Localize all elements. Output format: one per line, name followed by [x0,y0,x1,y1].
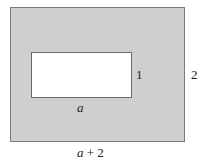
area-diagram: 1 2 a a + 2 [0,0,206,158]
inner-width-label: a [77,101,84,114]
inner-rectangle [31,52,132,98]
outer-width-label: a + 2 [77,146,104,158]
inner-height-label: 1 [136,68,143,81]
outer-height-label: 2 [191,68,198,81]
outer-width-addend: + 2 [84,145,104,158]
